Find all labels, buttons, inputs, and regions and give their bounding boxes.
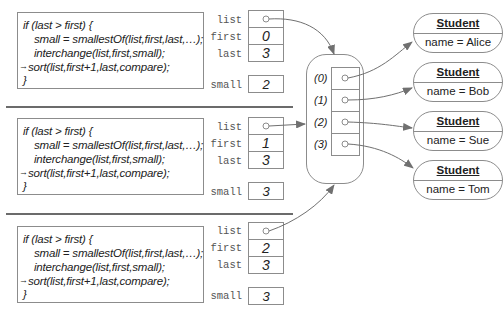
pointer-dot-icon (263, 123, 269, 129)
pointer-dot-icon (342, 97, 348, 103)
pointer-dot-icon (263, 228, 269, 234)
pointer-dot-icon (342, 119, 348, 125)
pointer-dot-icon (263, 16, 269, 22)
pointer-dot-icon (342, 75, 348, 81)
pointer-dot-icon (342, 141, 348, 147)
